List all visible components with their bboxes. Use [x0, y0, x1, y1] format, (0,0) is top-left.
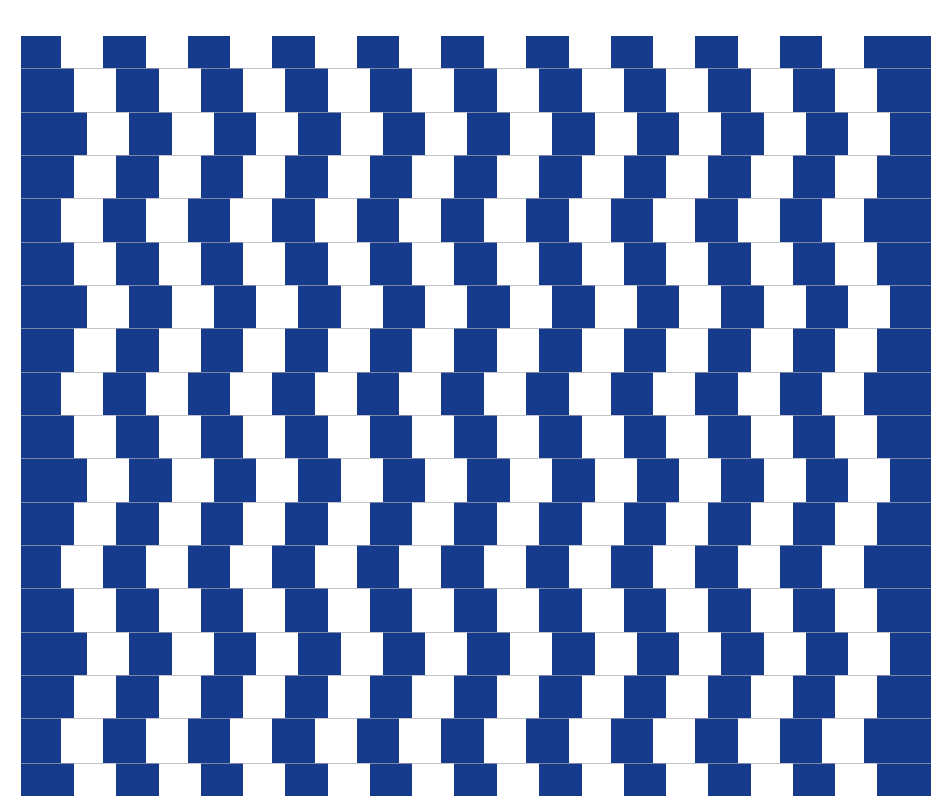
white-tile [738, 36, 780, 68]
white-tile [582, 68, 624, 112]
white-tile [738, 198, 780, 242]
white-tile [243, 415, 285, 458]
white-tile [738, 372, 780, 415]
white-tile [738, 545, 780, 588]
mortar-line [21, 415, 931, 416]
white-tile [595, 458, 637, 502]
white-tile [159, 502, 201, 545]
white-tile [243, 588, 285, 632]
white-tile [484, 545, 526, 588]
white-tile [497, 588, 539, 632]
white-tile [87, 632, 129, 675]
white-tile [328, 502, 370, 545]
white-tile [497, 68, 539, 112]
white-tile [582, 675, 624, 718]
white-tile [146, 718, 188, 763]
white-tile [412, 588, 454, 632]
mortar-line [21, 675, 931, 676]
white-tile [835, 415, 877, 458]
white-tile [159, 242, 201, 285]
white-tile [595, 112, 637, 155]
white-tile [679, 458, 721, 502]
white-tile [848, 632, 890, 675]
white-tile [764, 458, 806, 502]
white-tile [569, 718, 611, 763]
mortar-line [21, 328, 931, 329]
white-tile [315, 198, 357, 242]
white-tile [61, 545, 103, 588]
white-tile [159, 675, 201, 718]
mortar-line [21, 502, 931, 503]
white-tile [666, 502, 708, 545]
white-tile [666, 68, 708, 112]
white-tile [595, 632, 637, 675]
white-tile [484, 36, 526, 68]
white-tile [256, 285, 298, 328]
mortar-line [21, 545, 931, 546]
white-tile [425, 112, 467, 155]
white-tile [582, 328, 624, 372]
white-tile [341, 458, 383, 502]
white-tile [243, 155, 285, 198]
white-tile [230, 545, 272, 588]
white-tile [412, 415, 454, 458]
white-tile [328, 68, 370, 112]
mortar-line [21, 458, 931, 459]
white-tile [835, 502, 877, 545]
white-tile [159, 328, 201, 372]
white-tile [399, 198, 441, 242]
white-tile [582, 415, 624, 458]
mortar-line [21, 588, 931, 589]
white-tile [679, 112, 721, 155]
white-tile [751, 155, 793, 198]
white-tile [146, 372, 188, 415]
white-tile [510, 632, 552, 675]
white-tile [653, 36, 695, 68]
white-tile [751, 502, 793, 545]
white-tile [74, 155, 116, 198]
white-tile [315, 718, 357, 763]
white-tile [412, 675, 454, 718]
white-tile [74, 68, 116, 112]
white-tile [61, 198, 103, 242]
mortar-line [21, 112, 931, 113]
mortar-line [21, 372, 931, 373]
white-tile [146, 198, 188, 242]
white-tile [172, 112, 214, 155]
white-tile [341, 112, 383, 155]
white-tile [74, 588, 116, 632]
white-tile [412, 763, 454, 796]
white-tile [412, 328, 454, 372]
white-tile [74, 328, 116, 372]
white-tile [328, 675, 370, 718]
mortar-line [21, 285, 931, 286]
white-tile [582, 763, 624, 796]
white-tile [569, 372, 611, 415]
white-tile [835, 155, 877, 198]
white-tile [751, 588, 793, 632]
white-tile [425, 458, 467, 502]
white-tile [172, 632, 214, 675]
white-tile [751, 328, 793, 372]
cafe-wall-illusion [0, 0, 952, 809]
white-tile [243, 328, 285, 372]
white-tile [74, 763, 116, 796]
white-tile [328, 328, 370, 372]
white-tile [87, 458, 129, 502]
white-tile [159, 155, 201, 198]
mortar-line [21, 198, 931, 199]
white-tile [595, 285, 637, 328]
white-tile [653, 372, 695, 415]
white-tile [315, 372, 357, 415]
white-tile [399, 718, 441, 763]
mortar-line [21, 155, 931, 156]
white-tile [822, 36, 864, 68]
mortar-line [21, 632, 931, 633]
white-tile [87, 112, 129, 155]
white-tile [256, 632, 298, 675]
mortar-line [21, 68, 931, 69]
white-tile [510, 112, 552, 155]
white-tile [484, 718, 526, 763]
white-tile [822, 545, 864, 588]
white-tile [61, 372, 103, 415]
